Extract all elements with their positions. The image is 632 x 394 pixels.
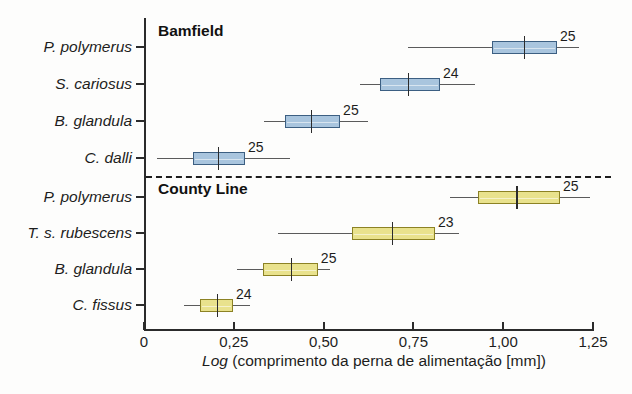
x-tick [412,322,414,330]
median-line [217,294,218,317]
box-iqr [478,191,560,204]
median-line [524,36,525,59]
group-title-bamfield: Bamfield [158,22,223,40]
x-tick [233,322,235,330]
boxplot-row: 23 [0,233,632,234]
x-tick [592,322,594,330]
x-axis-title-log: Log [202,352,228,369]
x-tick-label: 0,25 [219,333,248,350]
boxplot-row: 25 [0,121,632,122]
boxplot-row: 25 [0,269,632,270]
boxplot-row: 25 [0,158,632,159]
sample-size-label: 25 [321,250,337,266]
box-highlight [287,122,338,123]
x-axis-title-rest: (comprimento da perna de alimentação [mm… [228,352,546,369]
sample-size-label: 25 [560,28,576,44]
boxplot-figure: 00,250,500,751,001,25BamfieldP. polymeru… [0,0,632,394]
median-line [516,186,517,209]
median-line [218,147,219,170]
box-iqr [380,78,440,91]
boxplot-row: 25 [0,47,632,48]
sample-size-label: 25 [563,178,579,194]
sample-size-label: 25 [343,102,359,118]
x-tick-label: 0,75 [399,333,428,350]
x-axis-title: Log (comprimento da perna de alimentação… [144,352,604,370]
sample-size-label: 23 [438,214,454,230]
box-iqr [285,115,340,128]
x-tick [323,322,325,330]
median-line [408,73,409,96]
boxplot-row: 24 [0,84,632,85]
box-iqr [352,227,435,240]
median-line [392,222,393,245]
sample-size-label: 24 [443,65,459,81]
sample-size-label: 24 [236,286,252,302]
y-axis-line [144,18,146,330]
x-tick-label: 0 [140,333,148,350]
x-tick-label: 1,25 [578,333,607,350]
boxplot-row: 24 [0,305,632,306]
box-highlight [480,198,558,199]
sample-size-label: 25 [248,139,264,155]
box-highlight [354,234,433,235]
box-highlight [382,85,438,86]
x-tick [143,322,145,330]
x-tick-label: 1,00 [489,333,518,350]
median-line [311,110,312,133]
group-divider [146,176,611,178]
boxplot-row: 25 [0,197,632,198]
x-tick [502,322,504,330]
median-line [291,258,292,281]
x-axis-line [144,329,594,331]
group-title-county-line: County Line [158,180,248,198]
x-tick-label: 0,50 [309,333,338,350]
